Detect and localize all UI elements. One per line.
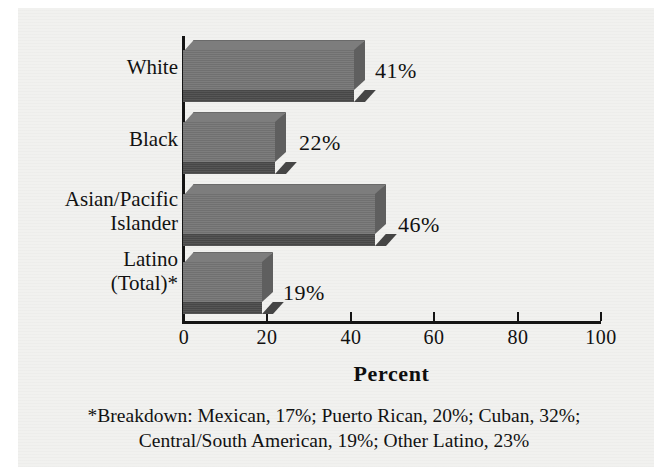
plot-area: 0 20 40 60 80 100 White 41% Black [0, 0, 654, 467]
footnote-line-1: *Breakdown: Mexican, 17%; Puerto Rican, … [34, 404, 634, 429]
bar-base-band [183, 302, 262, 314]
footnote-line-2: Central/South American, 19%; Other Latin… [34, 429, 634, 454]
x-tick-label-80: 80 [488, 326, 548, 349]
bar-side-face [375, 184, 386, 234]
bar-category-label: Latino (Total)* [111, 248, 178, 295]
bar-side-face [262, 252, 273, 302]
bar-value-label: 19% [283, 280, 325, 306]
bar-front-face [183, 194, 375, 234]
x-tick-label-40: 40 [321, 326, 381, 349]
x-tick-label-20: 20 [237, 326, 297, 349]
bar-base-cap [262, 302, 284, 314]
bar-category-label: White [127, 56, 178, 80]
bar-front-face [183, 262, 262, 302]
bar-side-face [275, 112, 286, 162]
chart-figure: 0 20 40 60 80 100 White 41% Black [0, 0, 654, 467]
x-axis-title: Percent [182, 361, 601, 387]
x-tick-60 [433, 312, 435, 321]
footnote: *Breakdown: Mexican, 17%; Puerto Rican, … [34, 404, 634, 454]
x-axis-line [182, 321, 601, 324]
bar-base-band [183, 162, 275, 174]
bar-base-cap [354, 90, 376, 102]
x-tick-80 [517, 312, 519, 321]
x-tick-40 [350, 312, 352, 321]
bar-category-label: Black [129, 128, 178, 152]
bar-category-label: Asian/Pacific Islander [65, 188, 178, 235]
x-tick-label-60: 60 [404, 326, 464, 349]
x-tick-label-0: 0 [154, 326, 214, 349]
bar-value-label: 41% [375, 58, 417, 84]
bar-base-band [183, 90, 354, 102]
bar-base-band [183, 234, 375, 246]
bar-front-face [183, 50, 354, 90]
bar-base-cap [375, 234, 397, 246]
bar-side-face [354, 40, 365, 90]
bar-base-cap [275, 162, 297, 174]
bar-value-label: 46% [398, 212, 440, 238]
x-tick-100 [600, 312, 602, 321]
bar-front-face [183, 122, 275, 162]
x-tick-label-100: 100 [571, 326, 631, 349]
bar-value-label: 22% [299, 130, 341, 156]
